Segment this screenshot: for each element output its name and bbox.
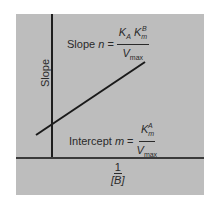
slope-eq-equals: = bbox=[107, 38, 113, 50]
intercept-eq-equals: = bbox=[127, 135, 133, 147]
slope-equation: Slope n = KA KmB Vmax bbox=[67, 22, 149, 65]
intercept-fraction: KmA Vmax bbox=[137, 119, 158, 162]
y-axis-label: Slope bbox=[39, 56, 51, 90]
intercept-numerator: KmA bbox=[139, 119, 155, 142]
x-axis-label-denominator: [B] bbox=[111, 174, 124, 187]
slope-eq-lhs: Slope bbox=[67, 38, 95, 50]
slope-denominator: Vmax bbox=[123, 45, 144, 65]
slope-numerator: KA KmB bbox=[117, 22, 149, 45]
x-axis-label: 1 [B] bbox=[111, 161, 124, 187]
x-axis-label-numerator: 1 bbox=[114, 161, 122, 174]
slope-eq-variable: n bbox=[98, 38, 104, 50]
y-axis bbox=[51, 14, 53, 159]
intercept-equation: Intercept m = KmA Vmax bbox=[69, 119, 157, 162]
intercept-eq-variable: m bbox=[115, 135, 124, 147]
intercept-denominator: Vmax bbox=[137, 142, 158, 162]
intercept-eq-lhs: Intercept bbox=[69, 135, 112, 147]
slope-fraction: KA KmB Vmax bbox=[117, 22, 149, 65]
